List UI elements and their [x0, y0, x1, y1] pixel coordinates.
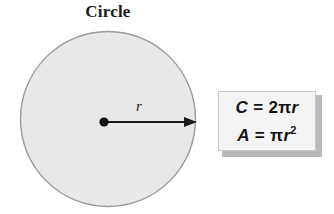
area-formula: A = πr2 — [237, 119, 297, 147]
area-lhs: A — [237, 125, 250, 144]
circle-figure: Circle r C = 2πr A = πr2 — [0, 0, 334, 214]
circumference-equals: = — [253, 98, 263, 117]
formula-box-container: C = 2πr A = πr2 — [218, 91, 318, 153]
circle-shape — [21, 32, 196, 207]
pi-symbol-area: π — [270, 125, 283, 144]
area-equals: = — [255, 125, 265, 144]
center-dot — [99, 117, 108, 126]
pi-symbol-circumference: π — [278, 98, 291, 117]
circumference-variable: r — [292, 98, 299, 117]
circle-diagram — [0, 0, 216, 214]
circumference-lhs: C — [236, 98, 249, 117]
formula-box: C = 2πr A = πr2 — [218, 91, 316, 151]
radius-label: r — [136, 98, 142, 114]
area-exponent: 2 — [290, 124, 296, 136]
circumference-formula: C = 2πr — [236, 96, 299, 119]
circumference-coefficient: 2 — [268, 98, 278, 117]
